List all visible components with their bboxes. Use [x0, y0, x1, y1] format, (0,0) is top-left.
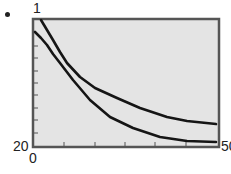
- plot-area: [0, 0, 231, 174]
- plot-frame: [33, 19, 219, 147]
